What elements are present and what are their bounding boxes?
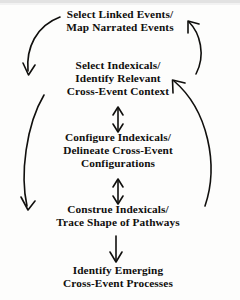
- node-line: Map Narrated Events: [20, 21, 220, 34]
- node-line: Configurations: [18, 157, 218, 170]
- node-line: Cross-Event Context: [18, 85, 218, 98]
- node-line: Identify Emerging: [18, 264, 218, 277]
- node-configure-indexicals: Configure Indexicals/ Delineate Cross-Ev…: [18, 131, 218, 171]
- diagram-canvas: Select Linked Events/ Map Narrated Event…: [0, 0, 240, 300]
- node-construe-indexicals: Construe Indexicals/ Trace Shape of Path…: [18, 203, 218, 229]
- node-identify-emerging: Identify Emerging Cross-Event Processes: [18, 264, 218, 290]
- node-line: Select Linked Events/: [20, 8, 220, 21]
- node-line: Select Indexicals/: [18, 59, 218, 72]
- node-line: Construe Indexicals/: [18, 203, 218, 216]
- node-select-linked-events: Select Linked Events/ Map Narrated Event…: [20, 8, 220, 34]
- node-select-indexicals: Select Indexicals/ Identify Relevant Cro…: [18, 59, 218, 99]
- node-line: Trace Shape of Pathways: [18, 216, 218, 229]
- node-line: Cross-Event Processes: [18, 277, 218, 290]
- node-line: Identify Relevant: [18, 72, 218, 85]
- node-line: Delineate Cross-Event: [18, 144, 218, 157]
- node-line: Configure Indexicals/: [18, 131, 218, 144]
